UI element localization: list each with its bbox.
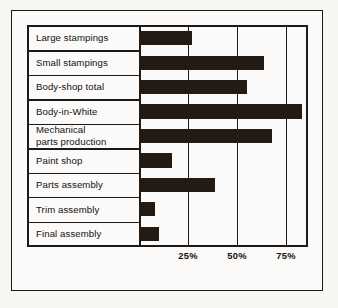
row-separator	[27, 50, 139, 51]
bar[interactable]	[139, 104, 302, 118]
row-separator	[27, 99, 139, 100]
tick-label: 50%	[227, 250, 246, 261]
bar[interactable]	[139, 129, 272, 143]
category-label: Body-shop total	[36, 81, 140, 93]
bar-row[interactable]: Body-in-White	[27, 99, 308, 123]
plot-area: Large stampingsSmall stampingsBody-shop …	[27, 25, 308, 247]
bar[interactable]	[139, 178, 215, 192]
bar-row[interactable]: Mechanical parts production	[27, 124, 308, 148]
bar-row[interactable]: Parts assembly	[27, 173, 308, 197]
bar[interactable]	[139, 80, 247, 94]
row-separator	[27, 75, 139, 76]
bar-row[interactable]: Body-shop total	[27, 75, 308, 99]
category-label: Large stampings	[36, 32, 140, 44]
bar-row[interactable]: Final assembly	[27, 222, 308, 246]
bar[interactable]	[139, 153, 172, 167]
bar-row[interactable]: Large stampings	[27, 26, 308, 50]
row-separator	[27, 222, 139, 223]
tick-label: 75%	[276, 250, 295, 261]
bar[interactable]	[139, 202, 155, 216]
row-separator	[27, 197, 139, 198]
bar[interactable]	[139, 227, 159, 241]
category-label: Small stampings	[36, 57, 140, 69]
category-label: Trim assembly	[36, 204, 140, 216]
bar[interactable]	[139, 31, 192, 45]
row-separator	[27, 148, 139, 149]
x-axis-tick-labels: 25%50%75%	[27, 250, 308, 266]
category-label: Body-in-White	[36, 106, 140, 118]
bar-row[interactable]: Paint shop	[27, 148, 308, 172]
bar-row[interactable]: Small stampings	[27, 50, 308, 74]
bar-rows: Large stampingsSmall stampingsBody-shop …	[27, 25, 308, 247]
row-separator	[27, 173, 139, 174]
bar[interactable]	[139, 56, 264, 70]
category-label: Parts assembly	[36, 179, 140, 191]
bar-row[interactable]: Trim assembly	[27, 197, 308, 221]
category-label: Mechanical parts production	[36, 124, 140, 147]
category-label: Final assembly	[36, 228, 140, 240]
category-label: Paint shop	[36, 155, 140, 167]
tick-label: 25%	[178, 250, 197, 261]
chart-figure: Large stampingsSmall stampingsBody-shop …	[0, 0, 338, 308]
